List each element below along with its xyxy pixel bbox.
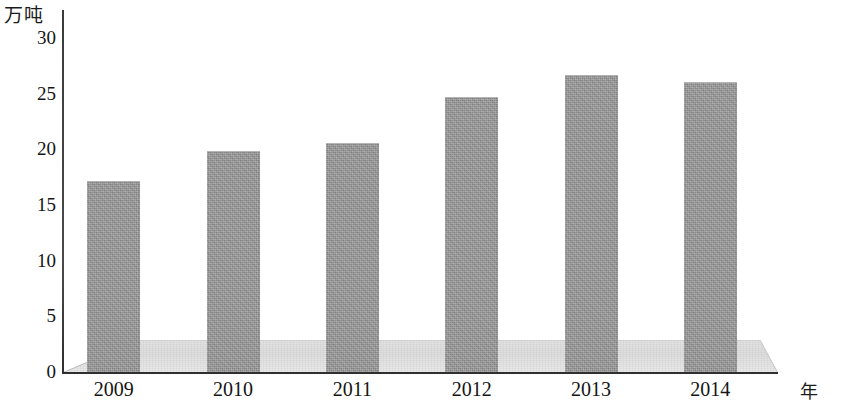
x-axis-tick-label: 2009 — [64, 378, 164, 400]
x-axis-tick-label: 2011 — [302, 378, 402, 400]
bar — [684, 82, 737, 372]
y-axis-tick-label: 0 — [10, 362, 56, 381]
bar — [326, 143, 379, 372]
x-axis-unit-label: 年 — [800, 383, 819, 401]
x-axis-tick-label: 2014 — [660, 378, 760, 400]
bar — [207, 151, 260, 372]
x-axis-tick-labels: 200920102011201220132014 — [62, 378, 778, 408]
bar — [565, 75, 618, 372]
y-axis-tick-label: 30 — [10, 28, 56, 47]
bar — [87, 181, 140, 372]
x-axis-tick-label: 2013 — [541, 378, 641, 400]
y-axis-tick-label: 20 — [10, 139, 56, 158]
x-axis-tick-label: 2012 — [422, 378, 522, 400]
bar-chart-figure: 万吨 302520151050 200920102011201220132014… — [0, 0, 842, 411]
y-axis-tick-label: 10 — [10, 251, 56, 270]
bar — [445, 97, 498, 372]
y-axis-tick-label: 5 — [10, 306, 56, 325]
x-axis-tick-label: 2010 — [183, 378, 283, 400]
y-axis-tick-labels: 302520151050 — [4, 0, 56, 411]
y-axis-tick-label: 15 — [10, 195, 56, 214]
y-axis-tick-label: 25 — [10, 84, 56, 103]
bars-layer — [62, 0, 778, 411]
